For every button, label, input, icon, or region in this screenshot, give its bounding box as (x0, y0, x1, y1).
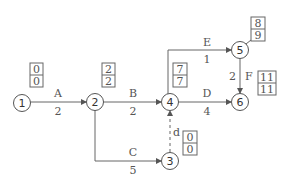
node-3: 3 (162, 153, 179, 170)
node-5-label: 5 (237, 44, 244, 57)
edge-b-name: B (129, 87, 137, 100)
node-6-latest: 11 (260, 83, 274, 96)
node-1-latest: 0 (33, 75, 40, 88)
edge-d-name: D (203, 87, 212, 100)
node-2: 2 (87, 94, 104, 111)
node-5: 5 (232, 42, 249, 59)
node-3-latest: 0 (187, 143, 194, 156)
node-4: 4 (162, 94, 179, 111)
node-6: 6 (232, 94, 249, 111)
activity-network-diagram: A 2 B 2 C 5 d D 4 E 1 2 F 1 2 3 4 5 6 0 … (0, 0, 287, 184)
edge-c-name: C (129, 146, 137, 159)
node-6-time-box: 11 11 (258, 71, 276, 96)
node-4-label: 4 (167, 96, 174, 109)
node-5-latest: 9 (255, 29, 262, 42)
edge-e-duration: 1 (204, 53, 211, 66)
edge-d-duration: 4 (204, 105, 211, 118)
node-3-time-box: 0 0 (183, 131, 197, 156)
node-6-label: 6 (237, 96, 244, 109)
box5-connector (246, 40, 251, 44)
edge-a-name: A (53, 87, 63, 100)
node-4-latest: 7 (177, 75, 184, 88)
node-3-label: 3 (167, 155, 174, 168)
edge-f-name: F (245, 70, 253, 83)
edge-a-duration: 2 (55, 105, 62, 118)
edge-f-duration: 2 (229, 70, 236, 83)
edge-c-duration: 5 (130, 164, 137, 177)
edge-b-duration: 2 (130, 105, 137, 118)
edge-e-name: E (203, 36, 211, 49)
node-5-time-box: 8 9 (251, 17, 265, 42)
node-1: 1 (14, 95, 31, 112)
node-2-label: 2 (92, 96, 99, 109)
node-1-time-box: 0 0 (30, 63, 43, 88)
node-2-time-box: 2 2 (102, 63, 115, 88)
edge-dummy-name: d (173, 126, 180, 139)
node-2-latest: 2 (105, 75, 112, 88)
node-4-time-box: 7 7 (173, 63, 187, 88)
node-1-label: 1 (19, 97, 26, 110)
